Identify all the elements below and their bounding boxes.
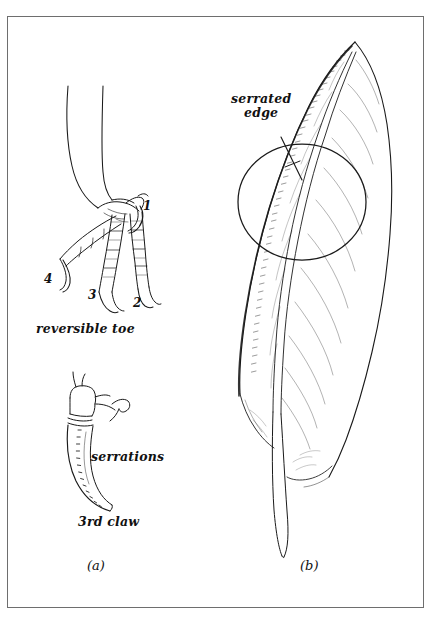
figure-border-frame bbox=[7, 16, 424, 608]
panel-caption-a: (a) bbox=[87, 558, 105, 573]
label-serrated-edge-line2: edge bbox=[231, 106, 291, 120]
label-serrated-edge-line1: serrated bbox=[231, 92, 291, 106]
label-serrations: serrations bbox=[91, 450, 164, 464]
toe-number-1: 1 bbox=[143, 199, 151, 213]
toe-number-4: 4 bbox=[44, 272, 52, 286]
toe-number-2: 2 bbox=[133, 296, 141, 310]
label-serrated-edge: serrated edge bbox=[231, 92, 291, 121]
label-reversible-toe: reversible toe bbox=[36, 322, 135, 336]
label-third-claw: 3rd claw bbox=[78, 515, 139, 529]
figure-root: reversible toe serrations 3rd claw serra… bbox=[0, 0, 441, 626]
panel-caption-b: (b) bbox=[300, 558, 318, 573]
toe-number-3: 3 bbox=[88, 288, 96, 302]
